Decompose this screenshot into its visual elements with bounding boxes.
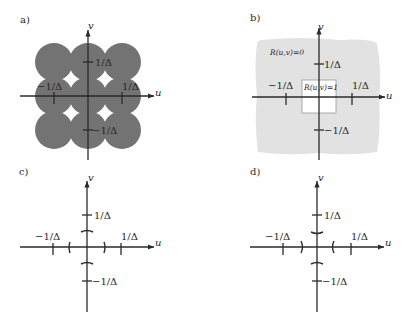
tick-v-neg: −1/Δ bbox=[92, 125, 117, 136]
panel-b: b) u v −1/Δ 1/Δ 1/Δ −1/Δ R(u,v)=0 R(u,v)… bbox=[250, 12, 392, 160]
tick-v-pos: 1/Δ bbox=[324, 210, 341, 221]
region-inside-label: R(u,v)=1 bbox=[303, 83, 338, 92]
tick-v-neg: −1/Δ bbox=[322, 276, 347, 287]
tick-u-neg: −1/Δ bbox=[265, 231, 290, 242]
tick-u-pos: 1/Δ bbox=[352, 80, 369, 91]
panel-c-label: c) bbox=[19, 166, 29, 177]
panel-a-label: a) bbox=[20, 14, 30, 25]
tick-u-neg: −1/Δ bbox=[37, 81, 62, 92]
figure-canvas: a) u v −1/Δ 1/Δ 1/Δ −1/Δ b) u v −1/Δ 1/Δ bbox=[0, 0, 409, 326]
panel-d: d) u v −1/Δ 1/Δ 1/Δ −1/Δ bbox=[250, 166, 391, 312]
v-axis-label: v bbox=[318, 21, 324, 32]
panel-a: a) u v −1/Δ 1/Δ 1/Δ −1/Δ bbox=[20, 14, 161, 160]
tick-u-neg: −1/Δ bbox=[268, 80, 293, 91]
panel-c: c) u v −1/Δ 1/Δ 1/Δ −1/Δ bbox=[19, 166, 161, 312]
tick-v-neg: −1/Δ bbox=[92, 276, 117, 287]
v-axis-label: v bbox=[88, 20, 94, 31]
panel-b-label: b) bbox=[250, 12, 260, 23]
u-axis-label: u bbox=[155, 237, 161, 248]
u-axis-label: u bbox=[385, 237, 391, 248]
tick-u-neg: −1/Δ bbox=[35, 231, 60, 242]
tick-u-pos: 1/Δ bbox=[122, 81, 139, 92]
u-axis-label: u bbox=[386, 90, 392, 101]
v-axis-label: v bbox=[318, 172, 324, 183]
region-outside-label: R(u,v)=0 bbox=[269, 48, 304, 57]
tick-v-pos: 1/Δ bbox=[95, 57, 112, 68]
tick-v-pos: 1/Δ bbox=[94, 210, 111, 221]
tick-u-pos: 1/Δ bbox=[351, 231, 368, 242]
tick-u-pos: 1/Δ bbox=[121, 231, 138, 242]
tick-v-pos: 1/Δ bbox=[324, 59, 341, 70]
panel-d-label: d) bbox=[250, 166, 260, 177]
u-axis-label: u bbox=[155, 87, 161, 98]
tick-v-neg: −1/Δ bbox=[324, 125, 349, 136]
v-axis-label: v bbox=[88, 172, 94, 183]
